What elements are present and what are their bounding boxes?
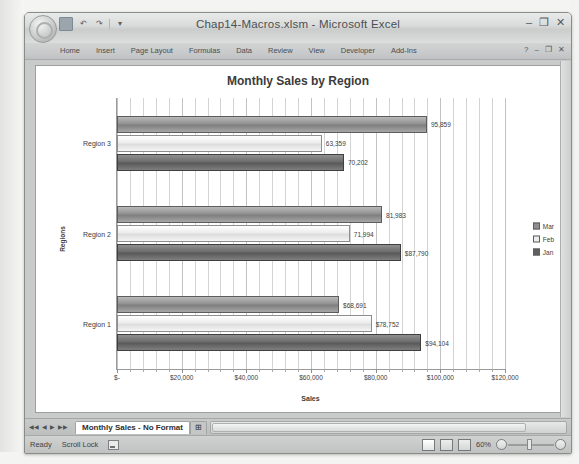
x-tickmark-major: [117, 369, 118, 373]
next-sheet-icon[interactable]: ▶: [50, 423, 55, 431]
first-sheet-icon[interactable]: ◀◀: [29, 423, 39, 431]
tab-view[interactable]: View: [301, 43, 333, 59]
plot-area: Region 1$68,691$78,752$94,104Region 281,…: [116, 98, 505, 370]
x-tickmark-minor: [402, 369, 403, 372]
horizontal-scrollbar[interactable]: [210, 421, 567, 434]
zoom-slider[interactable]: [496, 440, 566, 449]
tab-data[interactable]: Data: [228, 43, 260, 59]
tab-insert[interactable]: Insert: [88, 43, 123, 59]
bar-row: 95,859: [117, 116, 505, 133]
data-label: $78,752: [372, 320, 400, 327]
x-axis-tick-label: $40,000: [235, 374, 259, 381]
x-tickmark-minor: [298, 369, 299, 372]
restore-ribbon-icon[interactable]: ❐: [545, 45, 552, 54]
ribbon-tab-strip: Home Insert Page Layout Formulas Data Re…: [25, 43, 571, 60]
bar-mar[interactable]: [117, 296, 339, 313]
bar-jan[interactable]: [117, 244, 401, 261]
bar-row: $78,752: [117, 315, 505, 332]
minimize-icon[interactable]: –: [526, 17, 532, 28]
x-tickmark-minor: [272, 369, 273, 372]
x-tickmark-major: [505, 369, 506, 373]
x-tickmark-minor: [208, 369, 209, 372]
minimize-ribbon-icon[interactable]: –: [535, 45, 539, 54]
close-icon[interactable]: ✕: [556, 17, 565, 28]
tab-home[interactable]: Home: [52, 43, 88, 59]
category-axis-label: Region 2: [83, 230, 111, 237]
bar-jan[interactable]: [117, 334, 421, 351]
tab-page-layout[interactable]: Page Layout: [123, 43, 181, 59]
help-icon[interactable]: ?: [524, 45, 528, 54]
tab-add-ins[interactable]: Add-Ins: [383, 43, 425, 59]
record-macro-icon[interactable]: [108, 440, 119, 450]
sheet-area: Monthly Sales by Region Regions Region 1…: [25, 60, 571, 418]
x-axis-tick-label: $100,000: [427, 374, 454, 381]
tab-developer[interactable]: Developer: [333, 43, 383, 59]
zoom-out-icon[interactable]: [496, 439, 507, 450]
prev-sheet-icon[interactable]: ◀: [42, 423, 47, 431]
x-tickmark-minor: [427, 369, 428, 372]
legend-label: Mar: [543, 223, 554, 230]
status-bar: Ready Scroll Lock 60%: [25, 435, 571, 453]
x-tickmark-minor: [143, 369, 144, 372]
scan-margin-left: [0, 0, 24, 464]
status-bar-left: Ready Scroll Lock: [30, 440, 119, 450]
data-label: 63,359: [322, 140, 346, 147]
data-label: $68,691: [339, 301, 367, 308]
tab-formulas[interactable]: Formulas: [181, 43, 228, 59]
x-tickmark-major: [182, 369, 183, 373]
chart-object[interactable]: Monthly Sales by Region Regions Region 1…: [35, 65, 561, 413]
window-controls: – ❐ ✕: [526, 17, 565, 28]
close-ribbon-icon[interactable]: ✕: [558, 45, 565, 54]
scan-margin-top: [0, 0, 579, 12]
x-axis-title: Sales: [116, 395, 505, 402]
x-axis-tick-label: $60,000: [299, 374, 323, 381]
legend-swatch-mar-icon: [533, 223, 540, 230]
x-tickmark-minor: [285, 369, 286, 372]
gridline-major: [505, 98, 506, 369]
vertical-scrollbar[interactable]: [560, 61, 570, 417]
zoom-in-icon[interactable]: [555, 439, 566, 450]
legend-label: Feb: [543, 236, 554, 243]
legend-swatch-feb-icon: [533, 236, 540, 243]
x-tickmark-minor: [259, 369, 260, 372]
data-label: $94,104: [421, 339, 449, 346]
bar-row: 70,202: [117, 154, 505, 171]
x-tickmark-minor: [337, 369, 338, 372]
zoom-level: 60%: [476, 440, 491, 449]
x-tickmark-minor: [156, 369, 157, 372]
bar-mar[interactable]: [117, 116, 427, 133]
zoom-slider-handle[interactable]: [527, 439, 532, 450]
horizontal-scrollbar-thumb[interactable]: [212, 423, 526, 432]
ribbon-window-controls: ? – ❐ ✕: [524, 45, 565, 54]
sheet-nav-arrows: ◀◀ ◀ ▶ ▶▶: [29, 423, 68, 431]
bar-feb[interactable]: [117, 225, 350, 242]
sheet-tab-monthly-sales[interactable]: Monthly Sales - No Format: [75, 421, 190, 434]
last-sheet-icon[interactable]: ▶▶: [58, 423, 68, 431]
chart-legend[interactable]: MarFebJan: [533, 223, 554, 256]
legend-item-feb[interactable]: Feb: [533, 236, 554, 243]
x-tickmark-minor: [324, 369, 325, 372]
x-tickmark-major: [246, 369, 247, 373]
legend-item-mar[interactable]: Mar: [533, 223, 554, 230]
bar-row: 63,359: [117, 135, 505, 152]
bar-feb[interactable]: [117, 315, 372, 332]
restore-icon[interactable]: ❐: [539, 17, 549, 28]
x-tickmark-major: [376, 369, 377, 373]
bar-row: $94,104: [117, 334, 505, 351]
x-tickmark-minor: [130, 369, 131, 372]
bar-jan[interactable]: [117, 154, 344, 171]
view-page-break-icon[interactable]: [458, 439, 471, 451]
view-normal-icon[interactable]: [422, 439, 435, 451]
legend-item-jan[interactable]: Jan: [533, 249, 554, 256]
bar-feb[interactable]: [117, 135, 322, 152]
insert-worksheet-icon[interactable]: ⊞: [190, 421, 207, 434]
x-tickmark-minor: [453, 369, 454, 372]
bar-mar[interactable]: [117, 206, 382, 223]
tab-review[interactable]: Review: [260, 43, 301, 59]
x-tickmark-minor: [233, 369, 234, 372]
view-page-layout-icon[interactable]: [440, 439, 453, 451]
category-axis-label: Region 3: [83, 140, 111, 147]
sheet-tab-bar: ◀◀ ◀ ▶ ▶▶ Monthly Sales - No Format ⊞: [25, 418, 571, 435]
x-tickmark-major: [440, 369, 441, 373]
chart-title: Monthly Sales by Region: [36, 74, 560, 88]
